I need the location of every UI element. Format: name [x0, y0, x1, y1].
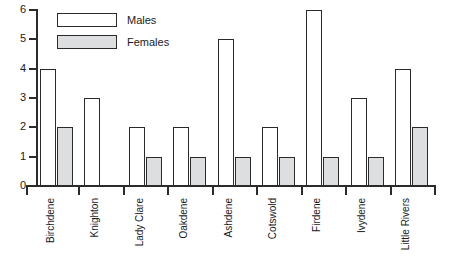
bar-chart: 0123456 BirchdeneKnightonLady ClareOakde…	[0, 0, 449, 275]
x-tick-8	[390, 187, 392, 195]
bar-birchdene-males	[40, 69, 56, 186]
bar-lady-clare-females	[146, 157, 162, 186]
y-tick-label-1: 1	[0, 151, 26, 162]
category-label-ashdene: Ashdene	[224, 198, 234, 237]
category-label-ivydene: Ivydene	[357, 198, 367, 233]
bar-ashdene-females	[235, 157, 251, 186]
bar-cotswold-males	[262, 127, 278, 186]
bar-little-rivers-females	[412, 127, 428, 186]
x-tick-2	[123, 187, 125, 195]
legend-item-females: Females	[57, 33, 169, 50]
category-label-knighton: Knighton	[90, 198, 100, 237]
x-tick-9	[434, 187, 436, 195]
chart-legend: Males Females	[57, 11, 169, 55]
bar-oakdene-males	[173, 127, 189, 186]
x-tick-4	[212, 187, 214, 195]
bar-cotswold-females	[279, 157, 295, 186]
category-label-firdene: Firdene	[312, 198, 322, 232]
bar-firdene-females	[323, 157, 339, 186]
bar-ashdene-males	[218, 39, 234, 186]
bar-firdene-males	[306, 10, 322, 186]
legend-label-females: Females	[127, 36, 169, 48]
bar-lady-clare-males	[129, 127, 145, 186]
category-label-birchdene: Birchdene	[46, 198, 56, 243]
y-tick-label-3: 3	[0, 92, 26, 103]
category-label-lady-clare: Lady Clare	[135, 198, 145, 246]
x-tick-0	[26, 187, 28, 195]
category-label-cotswold: Cotswold	[268, 198, 278, 239]
legend-label-males: Males	[127, 14, 156, 26]
legend-item-males: Males	[57, 11, 169, 28]
bar-little-rivers-males	[395, 69, 411, 186]
y-tick-label-4: 4	[0, 63, 26, 74]
x-tick-7	[345, 187, 347, 195]
bar-ivydene-males	[351, 98, 367, 186]
y-tick-label-5: 5	[0, 33, 26, 44]
bar-birchdene-females	[57, 127, 73, 186]
x-tick-6	[301, 187, 303, 195]
legend-swatch-males-icon	[57, 13, 117, 27]
x-tick-5	[256, 187, 258, 195]
category-label-oakdene: Oakdene	[179, 198, 189, 239]
bar-oakdene-females	[190, 157, 206, 186]
legend-swatch-females-icon	[57, 35, 117, 49]
bar-knighton-males	[84, 98, 100, 186]
category-label-little-rivers: Little Rivers	[401, 198, 411, 250]
y-tick-label-6: 6	[0, 4, 26, 15]
y-tick-label-0: 0	[0, 180, 26, 191]
x-tick-3	[167, 187, 169, 195]
y-tick-label-2: 2	[0, 121, 26, 132]
x-tick-1	[78, 187, 80, 195]
bar-ivydene-females	[368, 157, 384, 186]
